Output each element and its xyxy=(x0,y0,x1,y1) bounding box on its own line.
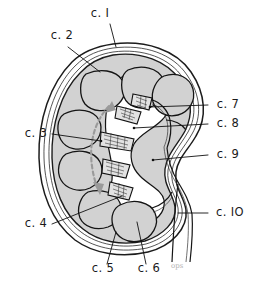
renal-column-top-right xyxy=(152,74,193,115)
label-c8[interactable]: c. 8 xyxy=(217,116,240,130)
artist-signature: ops xyxy=(171,262,184,270)
label-c5[interactable]: c. 5 xyxy=(92,261,115,275)
ureter-outer-wall xyxy=(190,214,192,262)
leader-dot-c9 xyxy=(152,159,155,162)
leader-dot-c8 xyxy=(133,127,136,130)
label-c10[interactable]: c. IO xyxy=(216,205,244,219)
renal-column-upper xyxy=(81,71,125,111)
label-c4[interactable]: c. 4 xyxy=(25,216,48,230)
leader-dot-c3 xyxy=(100,140,103,143)
label-c6[interactable]: c. 6 xyxy=(138,261,161,275)
label-c2[interactable]: c. 2 xyxy=(51,28,74,42)
label-c7[interactable]: c. 7 xyxy=(217,97,240,111)
figure-canvas: c. I c. 2 c. 3 c. 4 c. 5 c. 6 c. 7 c. 8 … xyxy=(0,0,253,285)
kidney-diagram: c. I c. 2 c. 3 c. 4 c. 5 c. 6 c. 7 c. 8 … xyxy=(0,0,253,285)
label-c9[interactable]: c. 9 xyxy=(217,147,240,161)
ureter-inner-wall xyxy=(186,214,188,262)
label-c1[interactable]: c. I xyxy=(91,6,110,20)
leader-dot-c7 xyxy=(149,106,152,109)
renal-column-bottom-right xyxy=(112,202,157,242)
label-c3[interactable]: c. 3 xyxy=(25,126,48,140)
